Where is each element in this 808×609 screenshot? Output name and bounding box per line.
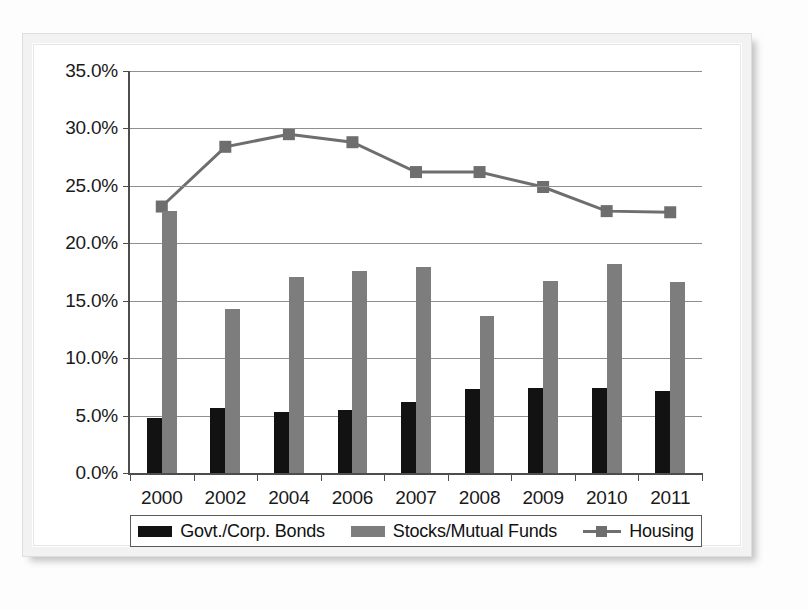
x-axis-label: 2007 <box>395 487 436 509</box>
legend-label-housing: Housing <box>629 521 694 542</box>
x-axis-label: 2009 <box>522 487 563 509</box>
bar-stocks-2010 <box>607 264 622 473</box>
bar-stocks-2009 <box>543 281 558 473</box>
gridline <box>130 186 702 187</box>
gridline <box>130 243 702 244</box>
y-axis-label: 0.0% <box>75 462 118 484</box>
gridline <box>130 128 702 129</box>
bar-bonds-2000 <box>147 418 162 473</box>
y-axis-tick <box>123 301 130 302</box>
x-axis-tick <box>448 473 449 481</box>
x-axis-label: 2010 <box>586 487 627 509</box>
x-axis-tick <box>130 473 131 481</box>
bar-bonds-2009 <box>528 388 543 473</box>
bar-stocks-2002 <box>225 309 240 473</box>
y-axis-tick <box>123 243 130 244</box>
bar-stocks-2006 <box>352 271 367 473</box>
bar-bonds-2010 <box>592 388 607 473</box>
housing-data-point-2004 <box>283 128 295 140</box>
y-axis-label: 20.0% <box>65 232 118 254</box>
x-axis-tick <box>575 473 576 481</box>
y-axis-label: 15.0% <box>65 290 118 312</box>
figure-inner-border: 0.0%5.0%10.0%15.0%20.0%25.0%30.0%35.0%20… <box>33 44 741 546</box>
bar-bonds-2007 <box>401 402 416 473</box>
housing-data-point-2002 <box>219 141 231 153</box>
gridline <box>130 71 702 72</box>
figure-frame: 0.0%5.0%10.0%15.0%20.0%25.0%30.0%35.0%20… <box>22 33 752 557</box>
x-axis-tick <box>194 473 195 481</box>
x-axis-tick <box>702 473 703 481</box>
housing-data-point-2008 <box>474 166 486 178</box>
x-axis-tick <box>257 473 258 481</box>
chart-area: 0.0%5.0%10.0%15.0%20.0%25.0%30.0%35.0%20… <box>34 45 740 545</box>
bar-bonds-2002 <box>210 408 225 473</box>
legend-label-stocks: Stocks/Mutual Funds <box>393 521 557 542</box>
x-axis-label: 2004 <box>268 487 309 509</box>
x-axis-label: 2006 <box>332 487 373 509</box>
bar-bonds-2011 <box>655 391 670 473</box>
y-axis-label: 5.0% <box>75 405 118 427</box>
bar-bonds-2004 <box>274 412 289 473</box>
y-axis-tick <box>123 128 130 129</box>
legend-item-bonds: Govt./Corp. Bonds <box>138 521 325 542</box>
x-axis-label: 2002 <box>205 487 246 509</box>
bar-stocks-2004 <box>289 277 304 473</box>
stocks-swatch-icon <box>351 526 385 537</box>
housing-line-marker-icon <box>583 526 621 537</box>
bar-stocks-2000 <box>162 211 177 473</box>
y-axis-tick <box>123 416 130 417</box>
y-axis-tick <box>123 358 130 359</box>
y-axis-label: 25.0% <box>65 175 118 197</box>
x-axis-tick <box>638 473 639 481</box>
housing-data-point-2009 <box>537 181 549 193</box>
bar-stocks-2011 <box>670 282 685 473</box>
legend-item-housing: Housing <box>583 521 694 542</box>
housing-data-point-2011 <box>664 206 676 218</box>
x-axis-label: 2000 <box>141 487 182 509</box>
bar-stocks-2008 <box>480 316 495 473</box>
y-axis-label: 30.0% <box>65 117 118 139</box>
scanned-figure-page: 0.0%5.0%10.0%15.0%20.0%25.0%30.0%35.0%20… <box>0 0 808 609</box>
bar-bonds-2006 <box>338 410 353 473</box>
housing-data-point-2010 <box>601 205 613 217</box>
y-axis-tick <box>123 473 130 474</box>
x-axis-label: 2011 <box>650 487 690 509</box>
legend-label-bonds: Govt./Corp. Bonds <box>180 521 325 542</box>
housing-data-point-2007 <box>410 166 422 178</box>
bonds-swatch-icon <box>138 526 172 537</box>
y-axis-label: 10.0% <box>65 347 118 369</box>
y-axis-tick <box>123 186 130 187</box>
y-axis-label: 35.0% <box>65 60 118 82</box>
bar-bonds-2008 <box>465 389 480 473</box>
x-axis-tick <box>511 473 512 481</box>
x-axis-tick <box>321 473 322 481</box>
plot-area: 0.0%5.0%10.0%15.0%20.0%25.0%30.0%35.0%20… <box>128 71 702 475</box>
x-axis-label: 2008 <box>459 487 500 509</box>
chart-legend: Govt./Corp. Bonds Stocks/Mutual Funds Ho… <box>130 515 702 547</box>
x-axis-tick <box>384 473 385 481</box>
y-axis-tick <box>123 71 130 72</box>
legend-item-stocks: Stocks/Mutual Funds <box>351 521 557 542</box>
housing-data-point-2006 <box>346 136 358 148</box>
bar-stocks-2007 <box>416 267 431 473</box>
